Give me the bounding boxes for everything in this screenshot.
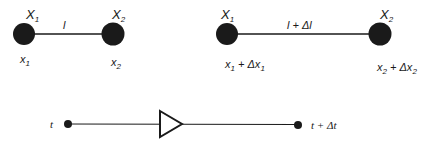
- edge-b-label: l + Δl: [287, 19, 312, 31]
- node-a-left-bottom-label: x1: [19, 53, 30, 68]
- panel-c: t t + Δt: [50, 111, 337, 137]
- node-a-right: [102, 23, 125, 46]
- node-a-left-top-label: X1: [25, 7, 39, 24]
- node-b-left-top-label: X1: [220, 7, 234, 24]
- triangle-right-icon: [160, 111, 182, 137]
- node-a-right-top-label: X2: [111, 7, 126, 24]
- edge-a-label: l: [63, 19, 66, 31]
- end-point: [294, 121, 302, 129]
- start-label: t: [50, 118, 54, 130]
- end-label: t + Δt: [311, 119, 337, 131]
- node-b-right-top-label: X2: [379, 7, 394, 24]
- diagram-canvas: X1 X2 l x1 x2 X1 X2 l + Δl x1 + Δx1 x2 +…: [0, 0, 437, 147]
- node-b-left-bottom-label: x1 + Δx1: [224, 58, 265, 73]
- node-b-right: [369, 23, 392, 46]
- panel-b: X1 X2 l + Δl x1 + Δx1 x2 + Δx2: [216, 7, 417, 76]
- panel-a: X1 X2 l x1 x2: [13, 7, 126, 71]
- node-a-left: [13, 23, 35, 45]
- start-point: [64, 120, 72, 128]
- node-a-right-bottom-label: x2: [110, 56, 122, 71]
- node-b-left: [216, 23, 238, 45]
- node-b-right-bottom-label: x2 + Δx2: [376, 61, 417, 76]
